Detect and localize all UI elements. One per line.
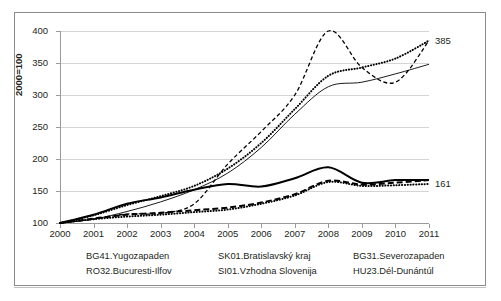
legend-swatch — [323, 265, 349, 268]
legend-label: BG31.Severozapaden — [353, 250, 445, 263]
legend-label: BG41.Yugozapaden — [86, 250, 169, 263]
y-axis-line — [60, 31, 61, 224]
x-axis-line — [60, 223, 429, 224]
series-end-label: 161 — [435, 179, 451, 189]
legend-label: RO32.Bucuresti-Ilfov — [86, 265, 172, 278]
gridline — [60, 159, 429, 160]
legend-label: SK01.Bratislavský kraj — [218, 250, 310, 263]
y-axis-title-label: 2000=100 — [13, 53, 24, 96]
y-axis-tick-label: 200 — [8, 154, 48, 164]
y-axis-title: 2000=100 — [13, 53, 24, 96]
legend-label: HU23.Dél-Dunántúl — [353, 265, 434, 278]
legend-label: SI01.Vzhodna Slovenija — [218, 265, 317, 278]
y-axis-tick-label: 150 — [8, 186, 48, 196]
footer-divider — [14, 287, 486, 288]
chart-legend: BG41.YugozapadenRO32.Bucuresti-IlfovSK01… — [18, 250, 482, 280]
legend-swatch — [188, 265, 214, 268]
figure-frame — [14, 12, 486, 286]
series-end-label: 385 — [435, 36, 451, 46]
gridline — [60, 31, 429, 32]
y-axis-tick-label: 250 — [8, 122, 48, 132]
gridline — [60, 127, 429, 128]
gridline — [60, 63, 429, 64]
chart-figure: 400350300250200150100 200020012002200320… — [0, 0, 501, 301]
legend-swatch — [188, 250, 214, 253]
y-axis-tick-label: 400 — [8, 26, 48, 36]
legend-swatch — [323, 250, 349, 253]
legend-swatch — [56, 265, 82, 268]
y-axis-tick-label: 100 — [8, 218, 48, 228]
gridline — [60, 95, 429, 96]
x-axis-tick-label: 2011 — [409, 229, 449, 239]
legend-swatch — [56, 250, 82, 253]
gridline — [60, 191, 429, 192]
